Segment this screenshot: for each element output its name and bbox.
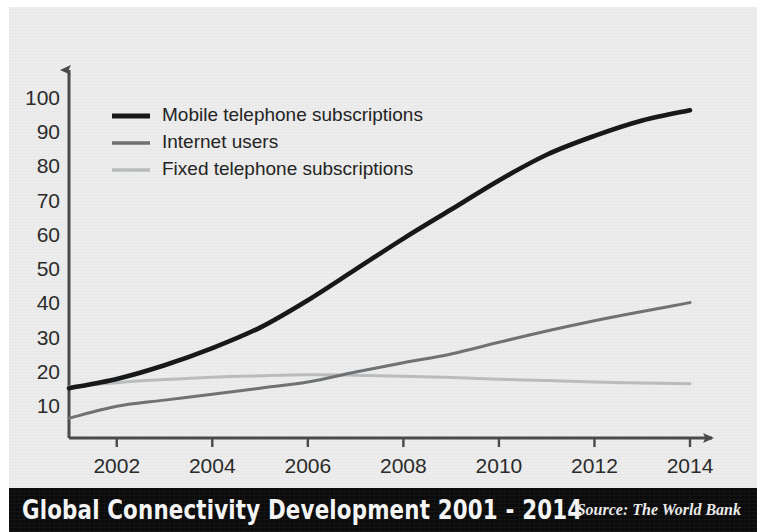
x-axis-tick-label: 2002 [77,454,157,478]
source-attribution: Source: The World Bank [577,501,741,519]
x-axis-tick-label: 2008 [363,454,443,478]
x-axis-tick-label: 2010 [459,454,539,478]
title-bar: Global Connectivity Development 2001 - 2… [9,488,757,532]
y-axis-tick-label: 100 [25,86,60,110]
x-axis-tick-label: 2012 [554,454,634,478]
y-axis-tick-label: 20 [37,360,60,384]
series-line-internet-users [69,303,690,419]
y-axis-tick-label: 10 [37,394,60,418]
y-axis-tick-label: 50 [37,257,60,281]
y-axis-tick-label: 60 [37,223,60,247]
line-chart-canvas [0,0,761,532]
x-axis-tick-label: 2014 [650,454,730,478]
legend-item-label: Fixed telephone subscriptions [162,158,413,180]
y-axis-tick-label: 30 [37,326,60,350]
y-axis-tick-label: 70 [37,189,60,213]
legend-item-label: Internet users [162,131,278,153]
page-title: Global Connectivity Development 2001 - 2… [22,494,582,526]
y-axis-tick-label: 40 [37,291,60,315]
series-line-fixed-telephone-subscriptions [69,375,690,387]
legend-item-label: Mobile telephone subscriptions [162,104,423,126]
x-axis-tick-label: 2004 [172,454,252,478]
x-axis-tick-label: 2006 [268,454,348,478]
data-series-layer [69,110,690,418]
chart-figure: 102030405060708090100 200220042006200820… [0,0,761,532]
y-axis-tick-label: 90 [37,120,60,144]
y-axis-tick-label: 80 [37,154,60,178]
